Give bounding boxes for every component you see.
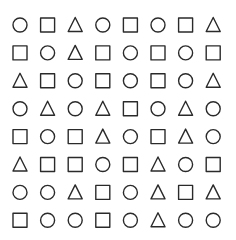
triangle-shape <box>41 101 55 115</box>
circle-shape <box>206 130 220 144</box>
shape-grid <box>0 0 236 240</box>
square-shape <box>13 213 27 227</box>
circle-shape <box>41 213 55 227</box>
square-shape <box>68 130 82 144</box>
square-shape <box>123 158 137 172</box>
circle-shape <box>123 130 137 144</box>
circle-shape <box>123 213 137 227</box>
circle-shape <box>68 74 82 88</box>
triangle-shape <box>179 101 193 115</box>
circle-shape <box>179 213 193 227</box>
square-shape <box>41 158 55 172</box>
circle-shape <box>68 102 82 116</box>
square-shape <box>151 74 165 88</box>
circle-shape <box>206 213 220 227</box>
square-shape <box>13 130 27 144</box>
circle-shape <box>41 185 55 199</box>
square-shape <box>96 46 110 60</box>
circle-shape <box>123 185 137 199</box>
circle-shape <box>179 74 193 88</box>
triangle-shape <box>151 213 165 227</box>
circle-shape <box>151 102 165 116</box>
circle-shape <box>96 158 110 172</box>
circle-shape <box>96 18 110 32</box>
triangle-shape <box>206 73 220 87</box>
square-shape <box>206 46 220 60</box>
circle-shape <box>13 185 27 199</box>
circle-shape <box>41 130 55 144</box>
square-shape <box>123 102 137 116</box>
square-shape <box>41 74 55 88</box>
triangle-shape <box>68 185 82 199</box>
circle-shape <box>13 102 27 116</box>
circle-shape <box>151 18 165 32</box>
triangle-shape <box>206 185 220 199</box>
square-shape <box>151 130 165 144</box>
circle-shape <box>206 102 220 116</box>
triangle-shape <box>206 18 220 32</box>
circle-shape <box>179 158 193 172</box>
square-shape <box>13 46 27 60</box>
square-shape <box>151 46 165 60</box>
triangle-shape <box>13 73 27 87</box>
square-shape <box>123 18 137 32</box>
triangle-shape <box>179 129 193 143</box>
circle-shape <box>179 46 193 60</box>
triangle-shape <box>151 157 165 171</box>
triangle-shape <box>68 18 82 32</box>
square-shape <box>41 18 55 32</box>
circle-shape <box>41 46 55 60</box>
triangle-shape <box>96 101 110 115</box>
square-shape <box>179 185 193 199</box>
circle-shape <box>123 46 137 60</box>
square-shape <box>179 18 193 32</box>
square-shape <box>96 74 110 88</box>
square-shape <box>96 213 110 227</box>
circle-shape <box>123 74 137 88</box>
circle-shape <box>68 213 82 227</box>
triangle-shape <box>151 185 165 199</box>
square-shape <box>206 158 220 172</box>
triangle-shape <box>13 157 27 171</box>
square-shape <box>96 185 110 199</box>
square-shape <box>68 158 82 172</box>
triangle-shape <box>68 45 82 59</box>
circle-shape <box>13 18 27 32</box>
triangle-shape <box>96 129 110 143</box>
